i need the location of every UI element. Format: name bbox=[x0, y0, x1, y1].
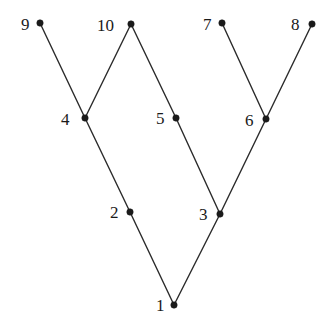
graph-node-label-4: 4 bbox=[61, 111, 70, 128]
graph-node-label-7: 7 bbox=[203, 16, 212, 33]
edges-layer bbox=[40, 23, 312, 305]
graph-node-label-10: 10 bbox=[97, 17, 114, 34]
graph-node-label-1: 1 bbox=[156, 297, 165, 314]
graph-edge-3-6 bbox=[220, 119, 266, 214]
graph-node-9 bbox=[37, 20, 43, 26]
graph-node-label-3: 3 bbox=[199, 206, 208, 223]
graph-node-6 bbox=[263, 116, 269, 122]
graph-edge-10-4 bbox=[85, 24, 131, 118]
nodes-layer bbox=[37, 20, 315, 308]
graph-edge-6-7 bbox=[222, 23, 266, 119]
graph-canvas bbox=[0, 0, 332, 326]
graph-node-1 bbox=[171, 302, 177, 308]
graph-node-5 bbox=[173, 115, 179, 121]
graph-node-3 bbox=[217, 211, 223, 217]
graph-node-2 bbox=[127, 209, 133, 215]
graph-node-label-8: 8 bbox=[291, 16, 300, 33]
graph-diagram: 12345678910 bbox=[0, 0, 332, 326]
graph-edge-9-4 bbox=[40, 23, 85, 118]
graph-node-8 bbox=[309, 21, 315, 27]
graph-node-10 bbox=[128, 21, 134, 27]
graph-node-label-6: 6 bbox=[245, 112, 254, 129]
graph-edge-5-3 bbox=[176, 118, 220, 214]
graph-node-4 bbox=[82, 115, 88, 121]
graph-edge-10-5 bbox=[131, 24, 176, 118]
graph-edge-1-3 bbox=[174, 214, 220, 305]
graph-node-label-2: 2 bbox=[110, 204, 119, 221]
graph-edge-6-8 bbox=[266, 24, 312, 119]
graph-edge-4-2 bbox=[85, 118, 130, 212]
graph-node-label-9: 9 bbox=[21, 16, 30, 33]
graph-node-label-5: 5 bbox=[156, 110, 165, 127]
graph-edge-2-1 bbox=[130, 212, 174, 305]
graph-node-7 bbox=[219, 20, 225, 26]
